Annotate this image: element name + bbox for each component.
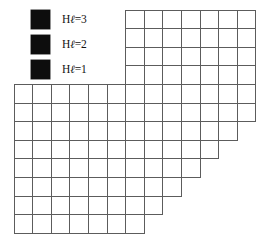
grid-cell — [237, 66, 256, 85]
grid-cell — [70, 84, 89, 103]
grid-cell — [51, 122, 70, 141]
legend-item-label: Hℓ=1 — [62, 64, 87, 76]
grid-cell — [200, 66, 219, 85]
legend-swatch-icon — [31, 60, 50, 79]
grid-cell — [33, 103, 52, 122]
grid-cell — [219, 103, 238, 122]
grid-cell — [14, 177, 33, 196]
grid-cell — [219, 47, 238, 66]
grid-cell — [144, 122, 163, 141]
grid-cell — [51, 84, 70, 103]
grid-cell — [163, 66, 182, 85]
grid-cell — [181, 103, 200, 122]
grid-cell — [51, 177, 70, 196]
grid-cell — [200, 84, 219, 103]
grid-cell — [144, 47, 163, 66]
grid-cell — [200, 103, 219, 122]
grid-cell — [107, 122, 126, 141]
grid-cell — [200, 140, 219, 159]
grid-cell — [33, 215, 52, 234]
grid-cell — [144, 159, 163, 178]
legend-item-h-ell-3: Hℓ=3 — [31, 9, 87, 30]
grid-cell — [219, 84, 238, 103]
grid-cell — [219, 29, 238, 48]
grid-cell — [126, 47, 145, 66]
grid-cell — [70, 103, 89, 122]
grid-cell — [14, 84, 33, 103]
grid-cell — [70, 140, 89, 159]
grid-cell — [33, 122, 52, 141]
grid-cell — [163, 10, 182, 29]
grid-cell — [33, 140, 52, 159]
grid-cell — [14, 215, 33, 234]
grid-cell — [181, 10, 200, 29]
grid-cell — [51, 140, 70, 159]
grid-cell — [163, 140, 182, 159]
grid-cell — [144, 196, 163, 215]
grid-cell — [144, 177, 163, 196]
grid-cell — [200, 47, 219, 66]
grid-cell — [107, 159, 126, 178]
grid-cell — [33, 159, 52, 178]
grid-cell — [51, 159, 70, 178]
grid-cell — [126, 10, 145, 29]
grid-cell — [51, 103, 70, 122]
grid-cell — [219, 66, 238, 85]
legend-swatch-icon — [31, 10, 50, 29]
grid-cell — [70, 159, 89, 178]
grid-cell — [181, 66, 200, 85]
grid-cell — [88, 215, 107, 234]
legend: Hℓ=3 Hℓ=2 Hℓ=1 — [31, 9, 121, 81]
legend-item-h-ell-1: Hℓ=1 — [31, 59, 87, 80]
grid-cell — [88, 122, 107, 141]
grid-cell — [181, 122, 200, 141]
grid-cell — [88, 196, 107, 215]
grid-cell — [163, 103, 182, 122]
grid-cell — [14, 122, 33, 141]
grid-cell — [181, 84, 200, 103]
grid-cell — [126, 196, 145, 215]
grid-cell — [181, 159, 200, 178]
grid-cell — [70, 215, 89, 234]
grid-cell — [126, 103, 145, 122]
grid-cell — [88, 140, 107, 159]
grid-cell — [181, 47, 200, 66]
grid-cell — [237, 47, 256, 66]
grid-cell — [70, 122, 89, 141]
grid-cell — [14, 140, 33, 159]
legend-item-h-ell-2: Hℓ=2 — [31, 34, 87, 55]
grid-cell — [144, 103, 163, 122]
grid-cell — [163, 159, 182, 178]
grid-cell — [70, 196, 89, 215]
legend-item-label: Hℓ=3 — [62, 14, 87, 26]
legend-swatch-icon — [31, 35, 50, 54]
grid-cell — [14, 196, 33, 215]
grid-cell — [107, 84, 126, 103]
grid-cell — [163, 84, 182, 103]
grid-cell — [33, 84, 52, 103]
grid-cell — [163, 122, 182, 141]
grid-cell — [107, 177, 126, 196]
grid-cell — [163, 29, 182, 48]
grid-cell — [33, 177, 52, 196]
grid-cell — [107, 196, 126, 215]
grid-cell — [14, 159, 33, 178]
figure-canvas: Hℓ=3 Hℓ=2 Hℓ=1 — [0, 0, 269, 238]
grid-cell — [181, 140, 200, 159]
grid-cell — [88, 84, 107, 103]
legend-item-label: Hℓ=2 — [62, 39, 87, 51]
grid-cell — [88, 159, 107, 178]
grid-cell — [163, 47, 182, 66]
grid-cell — [144, 140, 163, 159]
grid-cell — [144, 66, 163, 85]
grid-cell — [107, 140, 126, 159]
grid-cell — [181, 29, 200, 48]
grid-cell — [126, 66, 145, 85]
grid-cell — [107, 215, 126, 234]
grid-cell — [33, 196, 52, 215]
grid-cell — [219, 122, 238, 141]
grid-cell — [163, 177, 182, 196]
grid-cell — [144, 84, 163, 103]
grid-cell — [126, 215, 145, 234]
grid-cell — [219, 10, 238, 29]
